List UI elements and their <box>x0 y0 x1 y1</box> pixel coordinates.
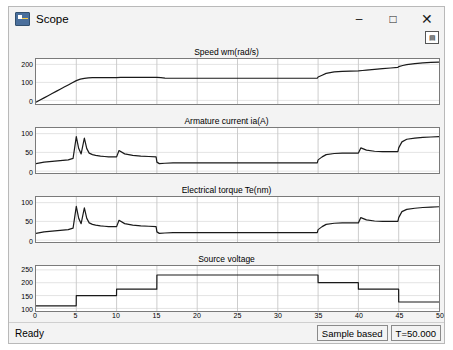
toolbar: ▤ <box>9 31 444 46</box>
y-tick-label: 0 <box>29 98 33 105</box>
scope-window: Scope – □ ✕ ▤ Speed wm(rad/s) 0100200 Ar… <box>8 6 445 344</box>
x-tick-label: 50 <box>436 312 444 319</box>
x-tick-label: 0 <box>33 312 37 319</box>
window-controls: – □ ✕ <box>342 7 444 31</box>
x-tick-label: 40 <box>355 312 363 319</box>
y-axis-labels: 050100 <box>13 196 35 243</box>
y-tick-label: 100 <box>21 306 33 313</box>
plot-area <box>35 196 440 243</box>
maximize-button[interactable]: □ <box>376 7 410 31</box>
status-sample-mode: Sample based <box>317 325 388 341</box>
y-tick-label: 150 <box>21 292 33 299</box>
y-axis-labels: 0100200 <box>13 58 35 105</box>
chart-electrical-torque: Electrical torque Te(nm) 050100 <box>13 184 440 253</box>
status-time: T=50.000 <box>391 325 441 341</box>
x-axis-spacer <box>13 105 440 115</box>
chart-title: Armature current ia(A) <box>13 116 440 127</box>
x-tick-label: 20 <box>193 312 201 319</box>
axes: 050100 <box>13 127 440 174</box>
y-tick-label: 250 <box>21 266 33 273</box>
x-tick-label: 45 <box>396 312 404 319</box>
axes: 050100 <box>13 196 440 243</box>
chart-speed: Speed wm(rad/s) 0100200 <box>13 46 440 115</box>
chart-source-voltage: Source voltage 100150200250 051015202530… <box>13 253 440 322</box>
plot-area <box>35 265 440 312</box>
y-axis-labels: 050100 <box>13 127 35 174</box>
close-button[interactable]: ✕ <box>410 7 444 31</box>
y-axis-labels: 100150200250 <box>13 265 35 312</box>
y-tick-label: 100 <box>21 79 33 86</box>
axes: 100150200250 <box>13 265 440 312</box>
plot-svg <box>36 197 439 242</box>
chart-title: Speed wm(rad/s) <box>13 47 440 58</box>
y-tick-label: 100 <box>21 129 33 136</box>
x-tick-label: 30 <box>274 312 282 319</box>
x-tick-label: 25 <box>234 312 242 319</box>
x-tick-label: 35 <box>315 312 323 319</box>
status-ready-label: Ready <box>15 328 44 339</box>
x-axis-spacer <box>13 243 440 253</box>
y-tick-label: 50 <box>25 149 33 156</box>
y-tick-label: 200 <box>21 279 33 286</box>
plot-svg <box>36 266 439 311</box>
plot-svg <box>36 128 439 173</box>
y-tick-label: 0 <box>29 238 33 245</box>
y-tick-label: 50 <box>25 218 33 225</box>
status-bar: Ready Sample based T=50.000 <box>9 322 444 343</box>
x-tick-label: 5 <box>74 312 78 319</box>
x-tick-label: 10 <box>112 312 120 319</box>
window-title: Scope <box>36 13 69 25</box>
x-axis-spacer <box>13 174 440 184</box>
minimize-button[interactable]: – <box>342 7 376 31</box>
cursor-measurement-icon[interactable]: ▤ <box>425 31 439 44</box>
y-tick-label: 0 <box>29 169 33 176</box>
x-axis-labels: 05101520253035404550 <box>35 312 440 322</box>
title-bar: Scope – □ ✕ <box>9 7 444 31</box>
plot-stack: Speed wm(rad/s) 0100200 Armature current… <box>9 46 444 322</box>
plot-svg <box>36 59 439 104</box>
y-tick-label: 200 <box>21 60 33 67</box>
chart-title: Electrical torque Te(nm) <box>13 185 440 196</box>
chart-title: Source voltage <box>13 254 440 265</box>
y-tick-label: 100 <box>21 198 33 205</box>
scope-icon <box>15 12 30 26</box>
x-tick-label: 15 <box>153 312 161 319</box>
status-right-group: Sample based T=50.000 <box>314 325 441 341</box>
axes: 0100200 <box>13 58 440 105</box>
plot-area <box>35 58 440 105</box>
plot-area <box>35 127 440 174</box>
chart-armature-current: Armature current ia(A) 050100 <box>13 115 440 184</box>
